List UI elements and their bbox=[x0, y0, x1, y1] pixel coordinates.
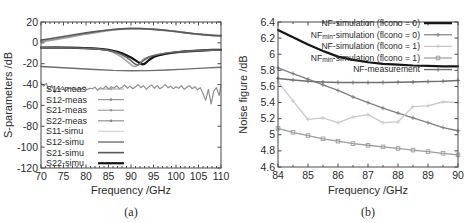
x-tick-label: 90 bbox=[452, 169, 464, 181]
legend-label: S21-meas bbox=[46, 105, 88, 115]
x-tick-label: 88 bbox=[392, 169, 404, 181]
x-tick-label: 87 bbox=[362, 169, 374, 181]
y-tick-label: 4.6 bbox=[260, 161, 275, 173]
y-tick-label: 5.8 bbox=[260, 64, 275, 76]
series-marker bbox=[110, 109, 113, 112]
x-tick-label: 90 bbox=[125, 170, 137, 182]
x-tick-label: 105 bbox=[190, 170, 208, 182]
y-tick-label: 0 bbox=[32, 36, 38, 48]
y-tick-label: 5.4 bbox=[260, 96, 275, 108]
legend-label: S22-simu bbox=[46, 158, 84, 168]
x-axis-title: Frequency /GHz bbox=[327, 184, 407, 196]
series-marker bbox=[110, 98, 113, 101]
y-tick-label: 5.6 bbox=[260, 80, 275, 92]
legend-label: NF-measurement bbox=[353, 64, 420, 74]
y-tick-label: 5.2 bbox=[260, 112, 275, 124]
y-tick-label: -80 bbox=[23, 120, 38, 132]
legend-label: NF-simulation (flcono = 1) bbox=[321, 41, 420, 51]
y-tick-label: -20 bbox=[23, 57, 38, 69]
legend-label: S11-meas bbox=[46, 84, 87, 94]
x-axis-title: Frequency /GHz bbox=[91, 184, 171, 196]
legend-label: NF-simulation (flcono = 0) bbox=[321, 18, 420, 28]
x-tick-label: 85 bbox=[302, 169, 314, 181]
x-tick-label: 110 bbox=[213, 170, 230, 182]
legend-label: S22-meas bbox=[46, 116, 88, 126]
y-tick-label: -120 bbox=[17, 162, 38, 174]
y-tick-label: 4.8 bbox=[260, 144, 275, 156]
y-axis-title: Noise figure /dB bbox=[237, 55, 249, 133]
x-tick-label: 100 bbox=[167, 170, 185, 182]
legend-label: S11-simu bbox=[46, 126, 83, 136]
legend-label: S12-meas bbox=[46, 95, 88, 105]
x-tick-label: 89 bbox=[422, 169, 434, 181]
y-tick-label: 5 bbox=[269, 128, 275, 140]
panel-subcaption: (a) bbox=[124, 205, 137, 219]
y-tick-label: 20 bbox=[26, 16, 38, 28]
series-marker bbox=[110, 120, 113, 123]
y-tick-label: -40 bbox=[23, 78, 38, 90]
y-tick-label: -100 bbox=[17, 141, 38, 153]
panel-b-noise-figure: 848586878889904.64.855.25.45.65.866.26.4… bbox=[234, 0, 467, 223]
series-marker bbox=[110, 88, 113, 91]
panel-b-plot: 848586878889904.64.855.25.45.65.866.26.4… bbox=[234, 0, 467, 223]
x-tick-label: 75 bbox=[58, 170, 70, 182]
y-tick-label: 6.4 bbox=[260, 16, 275, 28]
y-tick-label: -60 bbox=[23, 99, 38, 111]
x-tick-label: 80 bbox=[80, 170, 92, 182]
y-tick-label: 6 bbox=[269, 48, 275, 60]
y-axis-title: S-parameters /dB bbox=[2, 52, 14, 138]
panel-a-plot: 707580859095100105110200-20-40-60-80-100… bbox=[0, 0, 233, 223]
x-tick-label: 85 bbox=[103, 170, 115, 182]
panel-a-s-parameters: 707580859095100105110200-20-40-60-80-100… bbox=[0, 0, 234, 223]
y-tick-label: 6.2 bbox=[260, 32, 275, 44]
x-tick-label: 95 bbox=[148, 170, 160, 182]
x-tick-label: 86 bbox=[332, 169, 344, 181]
panel-subcaption: (b) bbox=[361, 205, 375, 219]
legend-label: S12-simu bbox=[46, 137, 84, 147]
figure-container: 707580859095100105110200-20-40-60-80-100… bbox=[0, 0, 467, 223]
legend-label: S21-simu bbox=[46, 148, 84, 158]
